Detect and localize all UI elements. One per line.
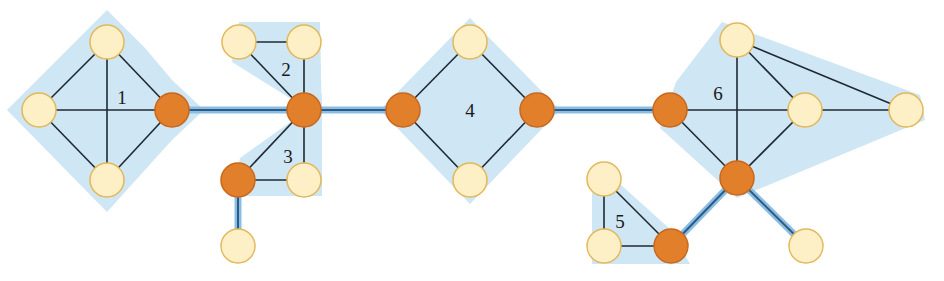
cut-vertex — [287, 93, 321, 127]
cut-vertex — [654, 229, 688, 263]
vertex — [90, 163, 124, 197]
vertex — [221, 229, 255, 263]
vertex — [789, 229, 823, 263]
vertex — [788, 93, 822, 127]
cut-vertex — [221, 163, 255, 197]
vertex — [90, 25, 124, 59]
vertex — [287, 25, 321, 59]
block-graph-diagram: 123456 — [0, 0, 944, 281]
block-label: 3 — [283, 146, 293, 167]
cut-vertex — [386, 93, 420, 127]
cut-vertex — [155, 93, 189, 127]
vertex — [453, 163, 487, 197]
vertex — [287, 163, 321, 197]
cut-vertex — [720, 161, 754, 195]
vertex — [720, 23, 754, 57]
vertex — [587, 162, 621, 196]
vertex — [22, 93, 56, 127]
vertex — [453, 25, 487, 59]
block-label: 2 — [281, 59, 291, 80]
cut-vertex — [520, 93, 554, 127]
vertex — [222, 25, 256, 59]
block-label: 5 — [615, 211, 625, 232]
block-label: 6 — [713, 83, 723, 104]
block-label: 4 — [465, 100, 475, 121]
cut-vertex — [653, 93, 687, 127]
vertex — [587, 229, 621, 263]
vertex — [889, 93, 923, 127]
block-label: 1 — [117, 87, 127, 108]
